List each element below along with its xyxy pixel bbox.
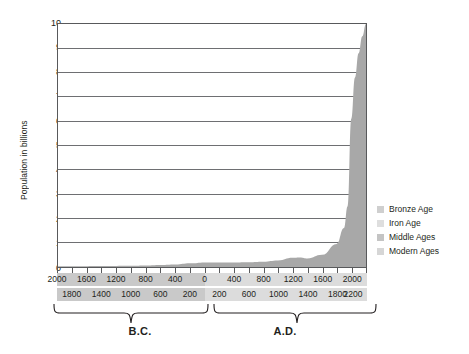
plot-area bbox=[57, 23, 367, 268]
x-tick-label: 1000 bbox=[264, 288, 292, 301]
x-tick-label: 1400 bbox=[294, 288, 322, 301]
chart-legend: Bronze AgeIron AgeMiddle AgesModern Ages bbox=[377, 202, 467, 258]
era-braces bbox=[50, 303, 380, 325]
x-tick-label: 0 bbox=[191, 273, 219, 286]
legend-label: Bronze Age bbox=[389, 205, 433, 214]
legend-label: Middle Ages bbox=[389, 233, 435, 242]
x-tick-label: 1600 bbox=[73, 273, 101, 286]
era-label-ad: A.D. bbox=[240, 325, 330, 337]
legend-item[interactable]: Bronze Age bbox=[377, 202, 467, 216]
x-tick-label: 2000 bbox=[338, 273, 366, 286]
x-tick-label: 400 bbox=[220, 273, 248, 286]
x-tick-label: 1800 bbox=[58, 288, 86, 301]
legend-swatch-icon bbox=[377, 248, 384, 255]
x-tick-label: 1200 bbox=[102, 273, 130, 286]
x-tick-label: 2000 bbox=[43, 273, 71, 286]
legend-swatch-icon bbox=[377, 234, 384, 241]
x-tick-label: 800 bbox=[250, 273, 278, 286]
legend-label: Modern Ages bbox=[389, 247, 439, 256]
legend-item[interactable]: Middle Ages bbox=[377, 230, 467, 244]
x-tick-label: 1000 bbox=[117, 288, 145, 301]
legend-item[interactable]: Modern Ages bbox=[377, 244, 467, 258]
legend-label: Iron Age bbox=[389, 219, 421, 228]
x-tick-label: 2200 bbox=[339, 288, 367, 301]
x-axis-band-row1: 2000160012008004000400800120016002000 bbox=[57, 273, 367, 286]
population-growth-chart: Population in billions 10 9 8 7 6 5 4 3 … bbox=[0, 0, 469, 354]
x-axis-band-row2: 1800140010006002002006001000140018002200 bbox=[57, 288, 367, 301]
x-tick-label: 1600 bbox=[309, 273, 337, 286]
era-label-bc: B.C. bbox=[95, 325, 185, 337]
x-tick-label: 800 bbox=[132, 273, 160, 286]
x-tick-label: 200 bbox=[205, 288, 233, 301]
x-tick-label: 600 bbox=[146, 288, 174, 301]
x-tick-label: 200 bbox=[176, 288, 204, 301]
legend-swatch-icon bbox=[377, 220, 384, 227]
x-tick-label: 600 bbox=[235, 288, 263, 301]
y-axis-title: Population in billions bbox=[17, 100, 31, 220]
x-tick-label: 400 bbox=[161, 273, 189, 286]
x-tick-label: 1200 bbox=[279, 273, 307, 286]
x-tick-label: 1400 bbox=[87, 288, 115, 301]
legend-item[interactable]: Iron Age bbox=[377, 216, 467, 230]
legend-swatch-icon bbox=[377, 206, 384, 213]
population-area-series bbox=[58, 24, 366, 267]
